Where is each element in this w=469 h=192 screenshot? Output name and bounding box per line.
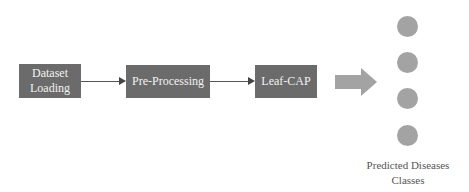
node-leaf-cap: Leaf-CAP (255, 65, 317, 98)
output-label-line2: Classes (358, 173, 458, 188)
node-label-line2: Loading (30, 81, 70, 96)
class-circle-3 (397, 88, 418, 109)
edge-dataset-to-preprocessing (81, 81, 119, 82)
node-pre-processing: Pre-Processing (126, 65, 210, 98)
node-label: Leaf-CAP (261, 74, 310, 89)
class-circle-1 (397, 16, 418, 37)
node-label: Pre-Processing (132, 74, 204, 89)
arrowhead-icon (119, 77, 126, 85)
edge-preprocessing-to-leafcap (210, 81, 248, 82)
node-dataset-loading: Dataset Loading (19, 64, 81, 98)
class-circle-2 (397, 52, 418, 73)
output-label-line1: Predicted Diseases (358, 158, 458, 173)
output-label: Predicted Diseases Classes (358, 158, 458, 188)
arrowhead-icon (248, 77, 255, 85)
block-arrow-icon (335, 68, 377, 96)
class-circle-4 (397, 125, 418, 146)
node-label-line1: Dataset (32, 66, 68, 81)
